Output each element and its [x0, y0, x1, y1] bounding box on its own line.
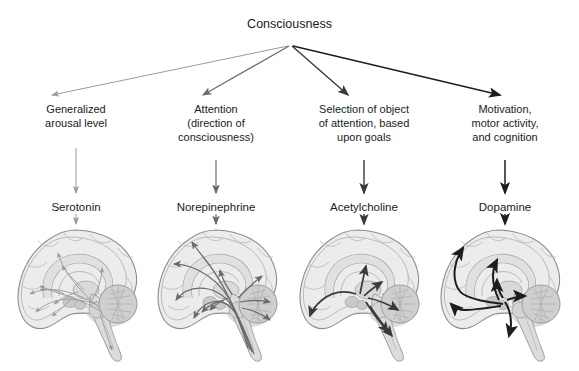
branch-label-line: upon goals	[289, 131, 439, 145]
neurotransmitter-label-dopamine: Dopamine	[430, 200, 579, 214]
fan-arrow-norepinephrine	[203, 46, 289, 95]
diagram-canvas: Consciousness Generalized arousal level …	[0, 0, 579, 371]
branch-label-line: Motivation,	[430, 103, 579, 117]
branch-label-dopamine: Motivation, motor activity, and cognitio…	[430, 103, 579, 144]
branch-label-line: Generalized	[1, 103, 151, 117]
branch-label-line: Attention	[141, 103, 291, 117]
branch-label-line: (direction of	[141, 117, 291, 131]
branch-label-line: consciousness)	[141, 131, 291, 145]
branch-label-serotonin: Generalized arousal level	[1, 103, 151, 131]
branch-label-line: Selection of object	[289, 103, 439, 117]
branch-label-norepinephrine: Attention (direction of consciousness)	[141, 103, 291, 144]
neurotransmitter-label-norepinephrine: Norepinephrine	[141, 200, 291, 214]
branch-label-line: arousal level	[1, 117, 151, 131]
fan-arrow-dopamine	[293, 46, 500, 95]
branch-label-line: of attention, based	[289, 117, 439, 131]
root-node-label: Consciousness	[0, 17, 579, 33]
fan-arrow-acetylcholine	[292, 46, 348, 95]
neurotransmitter-label-acetylcholine: Acetylcholine	[289, 200, 439, 214]
neurotransmitter-label-serotonin: Serotonin	[1, 200, 151, 214]
branch-label-line: and cognition	[430, 131, 579, 145]
branch-label-line: motor activity,	[430, 117, 579, 131]
connector-arrow-layer	[0, 0, 579, 371]
fan-arrow-serotonin	[52, 46, 288, 95]
branch-label-acetylcholine: Selection of object of attention, based …	[289, 103, 439, 144]
